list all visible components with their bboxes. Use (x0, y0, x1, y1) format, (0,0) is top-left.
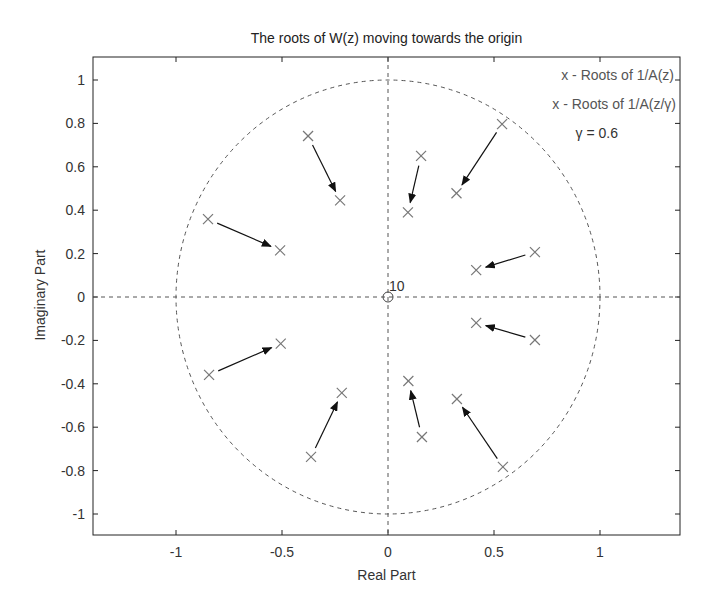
y-tick-label: -0.2 (61, 332, 85, 348)
y-tick-label: 1 (77, 72, 85, 88)
root-marker-1-over-A-gamma (276, 339, 286, 349)
root-movement-arrow (410, 166, 419, 203)
y-tick-label: -1 (73, 506, 86, 522)
root-movement-arrow (411, 391, 420, 428)
x-tick-label: 1 (596, 544, 604, 560)
gamma-annotation: γ = 0.6 (576, 125, 618, 141)
root-marker-1-over-A-gamma (451, 188, 461, 198)
root-marker-1-over-A (530, 247, 540, 257)
y-tick-label: -0.8 (61, 463, 85, 479)
root-movement-arrow (313, 145, 336, 192)
x-axis-label: Real Part (93, 567, 680, 583)
y-tick-label: 0 (77, 289, 85, 305)
legend-entry-roots-A-gamma: x - Roots of 1/A(z/γ) (552, 96, 676, 112)
root-movement-arrow (217, 223, 271, 246)
root-arrows (217, 132, 525, 458)
y-tick-label: -0.4 (61, 376, 85, 392)
y-tick-label: -0.6 (61, 419, 85, 435)
root-movement-arrow (218, 348, 271, 371)
root-marker-1-over-A (204, 370, 214, 380)
origin-multiplicity-label: 10 (389, 278, 405, 294)
root-marker-1-over-A-gamma (403, 376, 413, 386)
root-marker-1-over-A (306, 452, 316, 462)
root-marker-1-over-A (203, 214, 213, 224)
x-tick-label: 0 (384, 544, 392, 560)
root-movement-arrow (463, 407, 498, 458)
root-marker-1-over-A (497, 119, 507, 129)
root-marker-1-over-A (416, 151, 426, 161)
root-marker-1-over-A-gamma (471, 318, 481, 328)
plot-area: -1-0.500.5110.80.60.40.20-0.2-0.4-0.6-0.… (0, 0, 713, 615)
root-movement-arrow (462, 132, 497, 185)
x-tick-label: -1 (170, 544, 183, 560)
root-movement-arrow (486, 326, 526, 338)
root-marker-1-over-A (498, 462, 508, 472)
root-markers: 10 (203, 119, 540, 472)
root-movement-arrow (315, 402, 337, 448)
root-marker-1-over-A-gamma (403, 207, 413, 217)
y-axis-label: Imaginary Part (32, 235, 48, 355)
root-marker-1-over-A (303, 131, 313, 141)
root-marker-1-over-A (417, 432, 427, 442)
root-marker-1-over-A-gamma (471, 265, 481, 275)
root-marker-1-over-A-gamma (275, 245, 285, 255)
y-tick-label: 0.6 (66, 159, 86, 175)
x-tick-label: -0.5 (270, 544, 294, 560)
y-tick-label: 0.4 (66, 202, 86, 218)
x-tick-label: 0.5 (484, 544, 504, 560)
y-tick-label: 0.2 (66, 246, 86, 262)
root-marker-1-over-A (530, 335, 540, 345)
root-marker-1-over-A-gamma (452, 394, 462, 404)
root-marker-1-over-A-gamma (335, 195, 345, 205)
root-movement-arrow (486, 255, 526, 267)
legend-entry-roots-A: x - Roots of 1/A(z) (561, 67, 674, 83)
root-marker-1-over-A-gamma (337, 388, 347, 398)
y-tick-label: 0.8 (66, 115, 86, 131)
